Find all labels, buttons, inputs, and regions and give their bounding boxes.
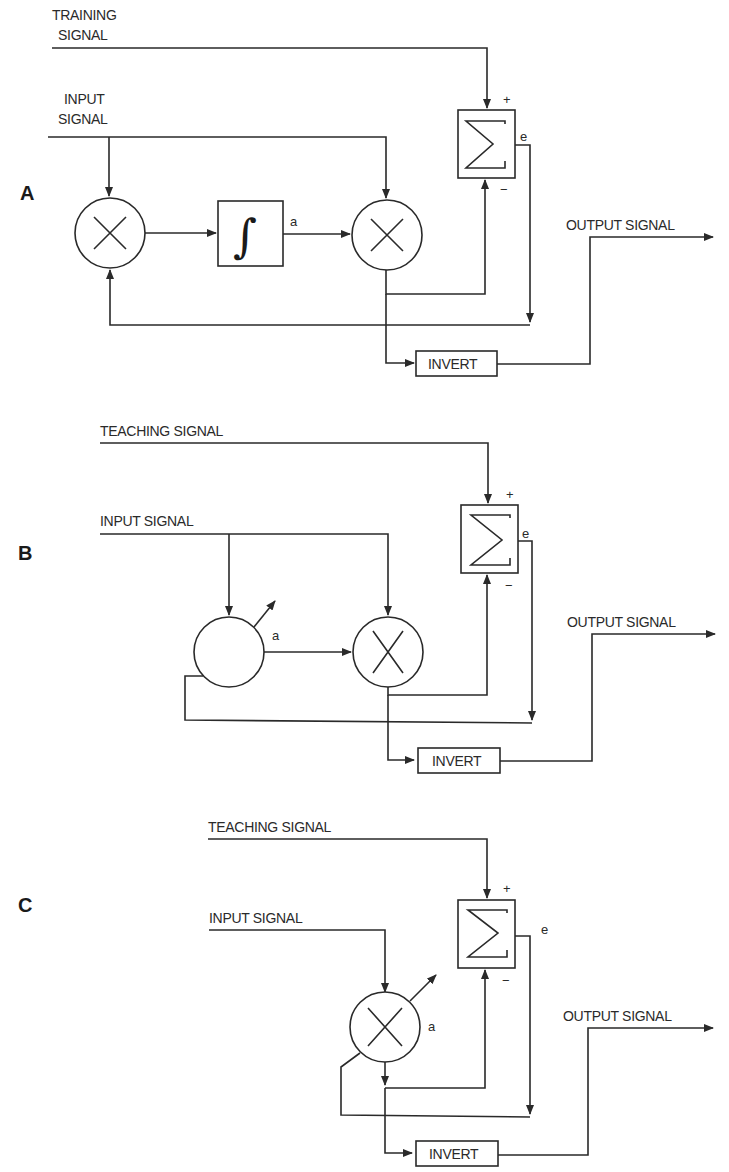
plus-sign: + (503, 92, 511, 107)
teaching-signal-label: TEACHING SIGNAL (208, 819, 332, 835)
to-invert-wire (386, 294, 414, 363)
invert-label: INVERT (428, 356, 478, 372)
input-signal-label-line1: INPUT (64, 91, 105, 107)
error-feedback-wire (110, 270, 530, 325)
weight-label-a: a (272, 628, 280, 643)
error-label-e: e (541, 922, 548, 937)
error-wire (518, 541, 532, 720)
output-signal-label: OUTPUT SIGNAL (566, 217, 675, 233)
teaching-signal-label: TEACHING SIGNAL (100, 423, 224, 439)
adjustable-arrow-icon (254, 601, 275, 627)
minus-sign: − (502, 973, 510, 988)
summing-junction-icon (458, 110, 515, 178)
teaching-signal-wire (100, 443, 488, 503)
error-label-e: e (522, 526, 529, 541)
integrator-icon: ∫ (218, 201, 283, 266)
summing-junction-icon (458, 900, 515, 968)
input-signal-label-line2: SIGNAL (58, 111, 108, 127)
to-invert-wire (385, 1088, 412, 1153)
error-wire (515, 936, 530, 1114)
teaching-signal-wire (208, 839, 487, 898)
multiplier-2-icon (352, 200, 422, 270)
panel-label-c: C (18, 894, 32, 916)
plus-sign: + (503, 881, 511, 896)
summing-junction-icon (461, 505, 518, 573)
training-signal-label-line1: TRAINING (52, 7, 117, 23)
multiplier-1-icon (75, 198, 145, 268)
invert-label: INVERT (429, 1146, 479, 1162)
input-signal-wire (48, 137, 386, 198)
input-signal-wire (209, 930, 385, 992)
to-invert-wire (388, 695, 414, 760)
weight-label-a: a (428, 1019, 436, 1034)
panel-c: C TEACHING SIGNAL INPUT SIGNAL a + − e I… (18, 819, 713, 1166)
error-wire (515, 145, 530, 322)
input-signal-label: INPUT SIGNAL (209, 910, 303, 926)
training-signal-label-line2: SIGNAL (58, 27, 108, 43)
plus-sign: + (506, 487, 514, 502)
output-signal-label: OUTPUT SIGNAL (563, 1008, 672, 1024)
training-signal-wire (52, 48, 487, 108)
input-signal-label: INPUT SIGNAL (100, 513, 194, 529)
error-label-e: e (520, 129, 527, 144)
adjustable-arrow-icon (410, 975, 436, 1001)
panel-label-a: A (20, 182, 34, 204)
invert-label: INVERT (432, 753, 482, 769)
minus-sign: − (505, 578, 513, 593)
adaptive-filter-diagrams: A TRAINING SIGNAL INPUT SIGNAL ∫ a (0, 0, 729, 1172)
adaptive-weight-icon (194, 617, 264, 687)
svg-text:∫: ∫ (233, 209, 257, 263)
input-signal-wire (100, 534, 388, 615)
error-feedback-wire (341, 1053, 530, 1117)
output-signal-label: OUTPUT SIGNAL (567, 614, 676, 630)
adaptive-multiplier-icon (350, 992, 420, 1062)
minus-sign: − (500, 182, 508, 197)
panel-b: B TEACHING SIGNAL INPUT SIGNAL a + − e I… (18, 423, 715, 773)
weight-label-a: a (290, 214, 298, 229)
multiplier-icon (353, 617, 423, 687)
panel-a: A TRAINING SIGNAL INPUT SIGNAL ∫ a (20, 7, 713, 376)
panel-label-b: B (18, 542, 32, 564)
